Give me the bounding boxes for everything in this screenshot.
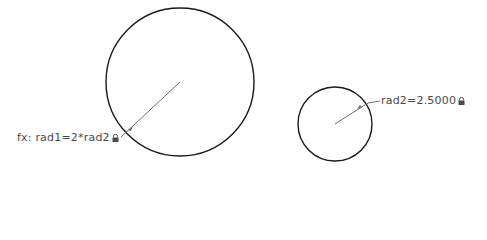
dimension-rad1-text: fx: rad1=2*rad2 xyxy=(17,131,110,144)
dimension-rad2-text: rad2=2.5000 xyxy=(381,94,456,107)
dimension-rad2-label[interactable]: rad2=2.5000 xyxy=(381,95,465,107)
lock-icon xyxy=(112,134,119,142)
dimension-rad2-leader[interactable] xyxy=(335,101,380,124)
dimension-rad1-leader[interactable] xyxy=(121,82,180,137)
lock-icon xyxy=(458,97,465,105)
dimension-rad1-label[interactable]: fx: rad1=2*rad2 xyxy=(17,132,119,144)
